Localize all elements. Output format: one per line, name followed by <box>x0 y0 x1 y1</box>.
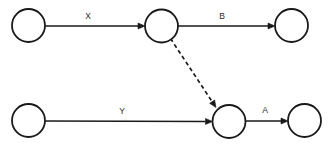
arrowhead-e-a <box>281 118 288 124</box>
nodes-layer <box>12 9 321 138</box>
arrowhead-e-x <box>138 23 145 29</box>
arrowhead-e-dashed <box>210 100 216 107</box>
node-n2[interactable] <box>145 10 178 43</box>
arrowhead-e-y <box>205 118 212 124</box>
edge-label-b: B <box>219 11 225 21</box>
edge-label-y: Y <box>119 106 125 116</box>
edge-e-dashed <box>171 39 213 102</box>
node-n4[interactable] <box>12 104 45 137</box>
node-n3[interactable] <box>275 9 308 42</box>
graph-svg: XBYA <box>0 0 331 149</box>
edge-label-a: A <box>262 105 268 115</box>
arrowhead-e-b <box>268 23 275 29</box>
node-n5[interactable] <box>213 105 246 138</box>
node-n1[interactable] <box>12 9 45 42</box>
edge-label-x: X <box>85 11 91 21</box>
diagram-canvas: XBYA <box>0 0 331 149</box>
node-n6[interactable] <box>288 104 321 137</box>
